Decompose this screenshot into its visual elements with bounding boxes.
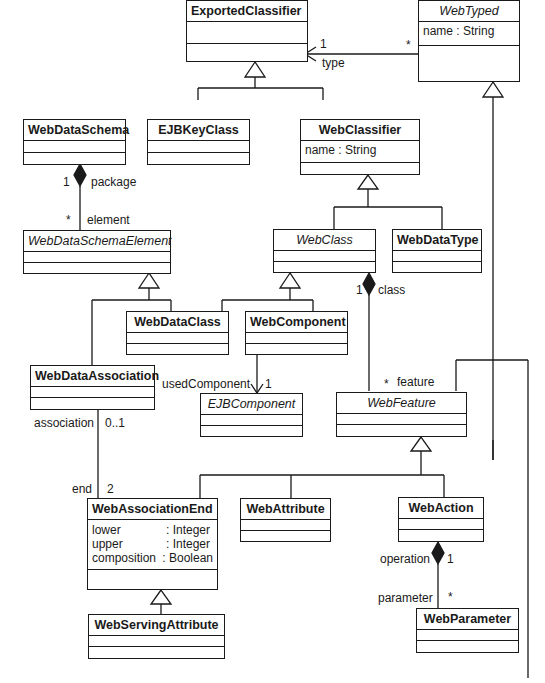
class-web-association-end[interactable]: WebAssociationEnd lower : Integer upper … [87,498,218,590]
operations-compartment [246,344,347,354]
attribute-row: lower : Integer [92,523,213,537]
operations-compartment [89,647,224,657]
class-web-action[interactable]: WebAction [398,497,484,542]
association-role: association [34,416,94,430]
class-web-feature[interactable]: WebFeature [336,392,467,437]
class-name: WebDataAssociation [31,366,154,387]
class-web-class[interactable]: WebClass [273,229,376,273]
association-multiplicity: 0..1 [105,416,125,430]
class-name: WebFeature [337,393,466,414]
class-name: WebDataType [393,230,481,251]
operations-compartment [399,530,483,540]
class-name: WebAction [399,498,483,519]
used-component-multiplicity: 1 [265,377,272,391]
class-web-data-type[interactable]: WebDataType [392,229,482,273]
class-name: WebServingAttribute [89,615,224,636]
package-role: package [91,175,136,189]
end-role: end [72,482,92,496]
attributes-compartment: name : String [419,22,519,46]
attributes-compartment [187,22,307,44]
attributes-compartment [241,520,330,531]
operations-compartment [127,344,228,354]
class-name: WebDataSchema [24,120,125,141]
class-name: WebClassifier [301,120,419,141]
operations-compartment [337,425,466,435]
attributes-compartment [24,141,125,153]
operation-multiplicity: 1 [447,552,454,566]
attributes-compartment [274,251,375,262]
operations-compartment [187,44,307,54]
class-ejb-component[interactable]: EJBComponent [200,393,303,437]
class-name: WebDataSchemaElement [24,231,170,252]
parameter-role: parameter [378,591,433,605]
class-web-data-schema[interactable]: WebDataSchema [23,119,126,165]
parameter-multiplicity: * [448,590,453,604]
operation-role: operation [380,552,430,566]
class-web-classifier[interactable]: WebClassifier name : String [300,119,420,175]
operations-compartment [419,46,519,56]
class-web-component[interactable]: WebComponent [245,311,348,355]
class-ejb-key-class[interactable]: EJBKeyClass [147,119,250,165]
class-name: WebTyped [419,1,519,22]
used-component-role: usedComponent [162,377,250,391]
element-role: element [87,213,130,227]
class-web-data-schema-element[interactable]: WebDataSchemaElement [23,230,171,274]
class-name: WebAttribute [241,499,330,520]
operations-compartment [88,570,217,580]
feature-multiplicity: * [384,377,389,391]
attribute: name : String [423,24,494,38]
attributes-compartment [246,333,347,344]
type-role: type [322,56,345,70]
attributes-compartment: lower : Integer upper : Integer composit… [88,520,217,570]
class-name: WebComponent [246,312,347,333]
element-multiplicity: * [66,213,71,227]
class-exported-classifier[interactable]: ExportedClassifier [186,0,308,62]
type-multiplicity: 1 [320,37,327,51]
attributes-compartment [393,251,481,262]
attributes-compartment [127,333,228,344]
attributes-compartment [89,636,224,647]
class-name: ExportedClassifier [187,1,307,22]
attributes-compartment [24,252,170,263]
class-role: class [378,283,405,297]
attributes-compartment [201,415,302,426]
attribute-row: upper : Integer [92,537,213,551]
class-web-typed[interactable]: WebTyped name : String [418,0,520,82]
operations-compartment [24,153,125,163]
class-web-serving-attribute[interactable]: WebServingAttribute [88,614,225,659]
attribute: name : String [305,143,376,157]
class-web-attribute[interactable]: WebAttribute [240,498,331,542]
package-multiplicity: 1 [63,175,70,189]
class-name: WebDataClass [127,312,228,333]
attributes-compartment [417,630,518,641]
operations-compartment [417,641,518,651]
operations-compartment [31,398,154,408]
operations-compartment [393,262,481,272]
class-web-data-class[interactable]: WebDataClass [126,311,229,355]
class-multiplicity: 1 [356,283,363,297]
operations-compartment [24,263,170,273]
attributes-compartment [148,141,249,153]
operations-compartment [241,531,330,541]
attributes-compartment [399,519,483,530]
end-multiplicity: 2 [107,482,114,496]
class-name: WebAssociationEnd [88,499,217,520]
class-name: WebParameter [417,609,518,630]
operations-compartment [201,426,302,436]
operations-compartment [148,153,249,163]
class-name: EJBComponent [201,394,302,415]
webtyped-multiplicity: * [406,38,411,52]
attributes-compartment [337,414,466,425]
attributes-compartment: name : String [301,141,419,163]
class-name: WebClass [274,230,375,251]
operations-compartment [301,163,419,173]
class-web-parameter[interactable]: WebParameter [416,608,519,653]
attributes-compartment [31,387,154,398]
operations-compartment [274,262,375,272]
class-web-data-association[interactable]: WebDataAssociation [30,365,155,410]
feature-role: feature [397,375,434,389]
attribute-row: composition : Boolean [92,551,213,565]
class-name: EJBKeyClass [148,120,249,141]
